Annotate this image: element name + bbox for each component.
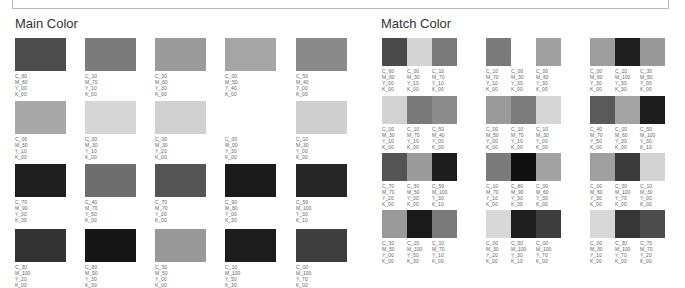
main-color-swatch xyxy=(225,229,276,262)
cmyk-label: C_30M_100Y_70K_00 xyxy=(615,240,630,264)
cmyk-label: C_70M_70Y_20K_00 xyxy=(155,199,168,223)
top-frame xyxy=(12,0,669,9)
cmyk-k-value: K_10 xyxy=(640,144,655,150)
match-color-swatch xyxy=(590,96,615,124)
cmyk-label: C_40M_70Y_50K_00 xyxy=(590,126,603,150)
cmyk-label: C_60M_60Y_00K_00 xyxy=(15,73,28,97)
cmyk-k-value: K_00 xyxy=(85,154,98,160)
main-color-swatch xyxy=(85,164,136,197)
cmyk-k-value: K_30 xyxy=(225,282,240,288)
match-color-swatch xyxy=(432,38,457,66)
cmyk-k-value: K_00 xyxy=(382,86,395,92)
cmyk-label: C_00M_100Y_70K_00 xyxy=(536,240,551,264)
match-color-group xyxy=(382,210,457,238)
match-color-swatch xyxy=(536,210,561,238)
cmyk-label: C_10M_30Y_00K_00 xyxy=(296,136,309,160)
match-color-swatch xyxy=(382,153,407,181)
main-color-swatch xyxy=(155,101,206,134)
cmyk-label: C_00M_30Y_20K_00 xyxy=(486,240,499,264)
match-color-swatch xyxy=(407,38,432,66)
cmyk-label: C_50M_100Y_30K_10 xyxy=(640,126,655,150)
match-color-swatch xyxy=(511,153,536,181)
main-color-swatch xyxy=(85,229,136,262)
cmyk-k-value: K_00 xyxy=(486,258,499,264)
cmyk-k-value: K_00 xyxy=(407,201,420,207)
match-color-swatch xyxy=(511,210,536,238)
cmyk-label: C_00M_50Y_40K_00 xyxy=(225,73,238,97)
main-color-swatch xyxy=(296,229,347,262)
cmyk-label: C_10M_70Y_10K_00 xyxy=(486,68,499,92)
cmyk-label: C_00M_100Y_70K_00 xyxy=(296,264,311,288)
cmyk-label: C_10M_30Y_00K_00 xyxy=(640,183,653,207)
cmyk-label: C_60M_60Y_00K_00 xyxy=(382,68,395,92)
cmyk-k-value: K_10 xyxy=(511,258,526,264)
match-color-group xyxy=(486,96,561,124)
match-color-swatch xyxy=(590,38,615,66)
cmyk-label: C_00M_50Y_00K_00 xyxy=(486,126,499,150)
match-color-group xyxy=(590,210,665,238)
cmyk-label: C_00M_30Y_10K_00 xyxy=(382,126,395,150)
main-color-swatch xyxy=(15,38,66,71)
cmyk-label: C_10M_70Y_10K_00 xyxy=(511,126,524,150)
cmyk-k-value: K_00 xyxy=(615,258,630,264)
main-color-swatch xyxy=(296,101,347,134)
cmyk-label: C_50M_40Y_00K_00 xyxy=(432,126,445,150)
cmyk-k-value: K_30 xyxy=(407,258,422,264)
cmyk-label: C_00M_60Y_30K_00 xyxy=(590,183,603,207)
cmyk-k-value: K_00 xyxy=(432,86,445,92)
cmyk-k-value: K_00 xyxy=(640,258,653,264)
cmyk-label: C_30M_50Y_00K_00 xyxy=(155,264,168,288)
cmyk-label: C_00M_30Y_10K_00 xyxy=(590,240,603,264)
match-color-group xyxy=(486,210,561,238)
match-color-swatch xyxy=(590,210,615,238)
match-color-swatch xyxy=(486,153,511,181)
cmyk-label: C_70M_70Y_20K_00 xyxy=(640,240,653,264)
cmyk-label: C_00M_00Y_30K_00 xyxy=(225,136,238,160)
cmyk-k-value: K_00 xyxy=(155,217,168,223)
cmyk-k-value: K_00 xyxy=(15,154,28,160)
cmyk-k-value: K_00 xyxy=(382,258,395,264)
cmyk-k-value: K_00 xyxy=(155,91,168,97)
cmyk-label: C_80M_90Y_30K_30 xyxy=(511,183,524,207)
cmyk-k-value: K_00 xyxy=(15,282,30,288)
cmyk-k-value: K_00 xyxy=(296,282,311,288)
cmyk-k-value: K_00 xyxy=(85,217,98,223)
cmyk-label: C_00M_30Y_30K_00 xyxy=(511,68,524,92)
match-color-swatch xyxy=(640,96,665,124)
cmyk-label: C_10M_70Y_10K_00 xyxy=(432,240,445,264)
match-color-group xyxy=(382,38,457,66)
main-color-title: Main Color xyxy=(15,16,78,31)
match-color-group xyxy=(382,96,457,124)
match-color-swatch xyxy=(615,96,640,124)
cmyk-label: C_10M_70Y_10K_00 xyxy=(432,68,445,92)
cmyk-k-value: K_00 xyxy=(486,144,499,150)
match-color-swatch xyxy=(536,153,561,181)
cmyk-k-value: K_00 xyxy=(225,91,238,97)
cmyk-label: C_10M_70Y_10K_00 xyxy=(486,183,499,207)
match-color-swatch xyxy=(615,153,640,181)
cmyk-k-value: K_00 xyxy=(432,144,445,150)
cmyk-k-value: K_00 xyxy=(536,258,551,264)
match-color-swatch xyxy=(615,38,640,66)
cmyk-label: C_00M_60Y_30K_00 xyxy=(590,68,603,92)
cmyk-label: C_00M_60Y_30K_00 xyxy=(536,68,549,92)
main-color-swatch xyxy=(225,101,276,134)
cmyk-label: C_40M_70Y_50K_00 xyxy=(85,199,98,223)
cmyk-label: C_30M_100Y_20K_00 xyxy=(15,264,30,288)
match-color-swatch xyxy=(615,210,640,238)
match-color-swatch xyxy=(486,210,511,238)
match-color-swatch xyxy=(536,96,561,124)
cmyk-k-value: K_10 xyxy=(432,201,447,207)
match-color-swatch xyxy=(407,210,432,238)
match-color-title: Match Color xyxy=(381,16,451,31)
match-color-group xyxy=(590,96,665,124)
cmyk-label: C_00M_30Y_10K_00 xyxy=(85,136,98,160)
match-color-swatch xyxy=(590,153,615,181)
cmyk-k-value: K_30 xyxy=(85,282,98,288)
cmyk-label: C_10M_70Y_10K_00 xyxy=(85,73,98,97)
match-color-swatch xyxy=(486,38,511,66)
cmyk-label: C_50M_40Y_00K_00 xyxy=(296,73,309,97)
cmyk-label: C_30M_50Y_00K_00 xyxy=(407,183,420,207)
cmyk-label: C_10M_100Y_50K_30 xyxy=(225,264,240,288)
match-color-swatch xyxy=(382,38,407,66)
